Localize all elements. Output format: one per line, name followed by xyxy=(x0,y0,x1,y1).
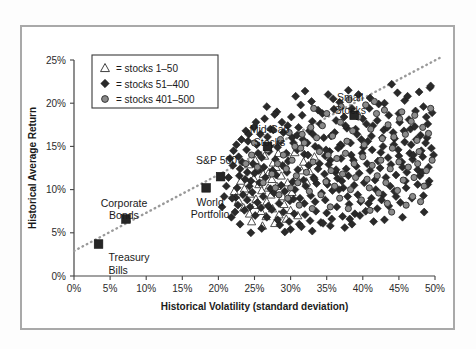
data-point xyxy=(364,176,370,182)
data-point xyxy=(376,190,382,196)
data-point xyxy=(321,170,329,178)
data-point xyxy=(328,167,334,173)
data-point xyxy=(394,187,400,193)
data-point xyxy=(298,145,304,151)
data-point xyxy=(292,143,298,149)
data-point xyxy=(254,164,260,170)
data-point xyxy=(249,152,255,158)
data-point xyxy=(399,109,405,115)
data-point xyxy=(308,227,316,235)
chart-outer-frame: 0%5%10%15%20%25%30%35%40%45%50%0%5%10%15… xyxy=(20,25,455,330)
data-point xyxy=(410,193,416,199)
data-point xyxy=(379,136,385,142)
data-point xyxy=(408,118,414,124)
data-point xyxy=(299,131,305,137)
x-tick-label: 20% xyxy=(208,283,228,294)
data-point xyxy=(361,142,367,148)
data-point xyxy=(414,180,422,188)
x-tick-label: 0% xyxy=(67,283,82,294)
data-point xyxy=(396,159,402,165)
y-axis-title: Historical Average Return xyxy=(27,107,38,229)
data-point xyxy=(325,152,331,158)
data-point xyxy=(297,101,305,109)
data-point xyxy=(236,165,244,173)
data-point xyxy=(313,135,319,141)
data-point xyxy=(405,164,411,170)
x-tick-label: 40% xyxy=(353,283,373,294)
data-point xyxy=(236,220,244,228)
data-point xyxy=(428,105,434,111)
data-point xyxy=(347,187,353,193)
data-point xyxy=(344,138,350,144)
data-point xyxy=(303,169,309,175)
data-point xyxy=(366,185,372,191)
data-point xyxy=(287,113,295,121)
data-point xyxy=(414,137,420,143)
data-point xyxy=(368,126,374,132)
legend-group[interactable]: = stocks 1–50= stocks 51–400= stocks 401… xyxy=(92,55,218,108)
x-tick-label: 35% xyxy=(317,283,337,294)
data-point xyxy=(350,128,356,134)
benchmark-marker xyxy=(202,184,211,193)
data-point xyxy=(263,103,271,111)
benchmark-marker xyxy=(94,240,103,249)
data-point xyxy=(368,146,376,154)
benchmark-label: World xyxy=(197,196,224,208)
data-point xyxy=(385,122,391,128)
data-point xyxy=(295,123,303,131)
data-point xyxy=(421,183,427,189)
data-point xyxy=(311,105,317,111)
data-point xyxy=(416,148,422,154)
data-point xyxy=(275,161,281,167)
data-point xyxy=(288,185,294,191)
data-point xyxy=(316,148,322,154)
data-point xyxy=(276,192,282,198)
data-point xyxy=(358,197,364,203)
data-point xyxy=(427,144,435,152)
benchmark-label: Small xyxy=(337,91,363,103)
data-point xyxy=(381,107,387,113)
benchmark-label: Portfolio xyxy=(191,208,230,220)
data-point xyxy=(244,137,252,145)
legend-label[interactable]: = stocks 1–50 xyxy=(116,63,178,74)
data-point xyxy=(367,207,373,213)
data-point xyxy=(323,179,329,185)
data-point xyxy=(328,215,336,223)
data-point xyxy=(337,195,343,201)
data-point xyxy=(388,80,396,88)
data-point xyxy=(261,115,269,123)
data-point xyxy=(415,161,421,167)
x-tick-label: 45% xyxy=(389,283,409,294)
data-point xyxy=(238,136,246,144)
legend-label[interactable]: = stocks 51–400 xyxy=(116,79,190,90)
data-point xyxy=(389,209,395,215)
x-tick-label: 10% xyxy=(136,283,156,294)
data-point xyxy=(225,174,233,182)
data-point xyxy=(243,168,251,176)
data-point xyxy=(378,157,384,163)
data-point xyxy=(374,173,380,179)
data-point xyxy=(285,195,291,201)
legend-label[interactable]: = stocks 401–500 xyxy=(116,94,195,105)
data-point xyxy=(412,112,418,118)
data-point xyxy=(320,134,328,142)
data-point xyxy=(342,150,348,156)
x-tick-label: 15% xyxy=(172,283,192,294)
data-point xyxy=(380,99,388,107)
data-point xyxy=(306,217,314,225)
data-point xyxy=(326,222,334,230)
data-point xyxy=(392,171,400,179)
data-point xyxy=(301,87,309,95)
data-point xyxy=(369,162,375,168)
data-point xyxy=(371,98,377,104)
data-point xyxy=(360,154,366,160)
data-point xyxy=(295,180,301,186)
data-points-group xyxy=(218,80,437,237)
data-point xyxy=(391,134,397,140)
data-point xyxy=(389,145,395,151)
data-point xyxy=(425,130,431,136)
data-point xyxy=(318,192,324,198)
x-tick-label: 30% xyxy=(281,283,301,294)
data-point xyxy=(269,171,275,177)
data-point xyxy=(411,174,417,180)
